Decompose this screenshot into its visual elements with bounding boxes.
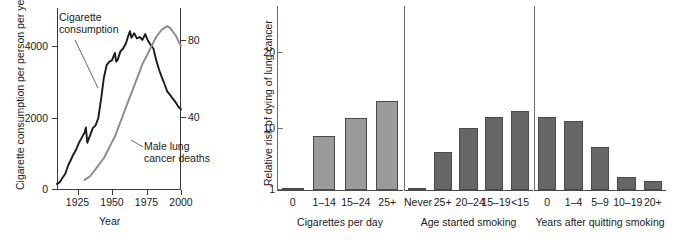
bar: [282, 188, 304, 190]
x-tick-1950: [112, 190, 113, 195]
group3-bars: [534, 0, 666, 190]
bars-y-tick-label-20: 20: [240, 46, 275, 58]
bar-category-label: 25+: [430, 196, 456, 208]
left-panel-x-axis: [57, 189, 181, 190]
bar: [485, 117, 503, 189]
y-right-tick-label-40: 40: [188, 111, 200, 123]
bar: [408, 188, 426, 190]
x-tick-1925: [78, 190, 79, 195]
annotation-cigarette-consumption: Cigarette consumption: [59, 12, 119, 35]
bar-category-label: <15: [507, 196, 533, 208]
bar-category-label: 1–4: [560, 196, 586, 208]
bars-y-tick-label-10: 10: [240, 122, 275, 134]
line-chart-panel: Cigarette consumption per person per yea…: [0, 0, 240, 245]
y-tick-2000: [52, 118, 57, 119]
bar: [459, 128, 477, 190]
bar-category-label: 25+: [372, 196, 404, 208]
bar-category-label: 10–19: [613, 196, 639, 208]
x-tick-1975: [147, 190, 148, 195]
group2-bars: [404, 0, 533, 190]
bar: [538, 117, 556, 189]
bar-category-label: 20+: [640, 196, 666, 208]
bar: [313, 136, 335, 190]
bar: [434, 152, 452, 189]
x-tick-label-2000: 2000: [161, 196, 201, 208]
bar-category-label: 0: [277, 196, 309, 208]
annotation-male-lung-cancer-deaths: Male lung cancer deaths: [144, 141, 210, 164]
left-panel-y-axis: [57, 8, 58, 190]
y-tick-label-2000: 2000: [0, 112, 48, 124]
left-y-axis-label: Cigarette consumption per person per yea…: [14, 0, 26, 190]
y-right-tick-80: [181, 40, 186, 41]
bar: [564, 121, 582, 190]
bar-charts-panel: Relative risk of dying of lung cancer 20…: [240, 0, 673, 245]
bar: [644, 181, 662, 190]
annotation-deaths-line1: Male lung: [144, 141, 210, 153]
bar-category-label: 0: [534, 196, 560, 208]
bar-category-label: 15–19: [481, 196, 507, 208]
bars-y-tick-label-1: 1: [240, 183, 275, 195]
bar: [591, 147, 609, 190]
bar: [617, 177, 635, 190]
bar: [345, 118, 367, 189]
bar-category-label: 15–24: [340, 196, 372, 208]
y-tick-0: [52, 189, 57, 190]
y-right-tick-label-80: 80: [188, 34, 200, 46]
annotation-deaths-line2: cancer deaths: [144, 153, 210, 165]
bar: [376, 101, 398, 189]
bar-category-label: 1–14: [309, 196, 341, 208]
group1-title: Cigarettes per day: [277, 216, 403, 228]
leader-line-cigarette: [75, 40, 98, 88]
bar-category-label: Never: [404, 196, 430, 208]
x-axis-label: Year: [99, 215, 120, 227]
y-tick-label-4000: 4000: [0, 40, 48, 52]
group1-bars: [277, 0, 403, 190]
y-tick-4000: [52, 46, 57, 47]
y-tick-label-0: 0: [0, 183, 48, 195]
group2-title: Age started smoking: [404, 216, 533, 228]
x-tick-2000: [181, 190, 182, 195]
leader-line-deaths: [131, 140, 143, 147]
annotation-cigarette-line2: consumption: [59, 24, 119, 36]
smoking-lung-cancer-figure: Cigarette consumption per person per yea…: [0, 0, 673, 245]
annotation-cigarette-line1: Cigarette: [59, 12, 119, 24]
group3-title: Years after quitting smoking: [534, 216, 666, 228]
bar: [511, 111, 529, 190]
bar-category-label: 5–9: [587, 196, 613, 208]
bar-category-label: 20–24: [456, 196, 482, 208]
y-right-tick-40: [181, 117, 186, 118]
